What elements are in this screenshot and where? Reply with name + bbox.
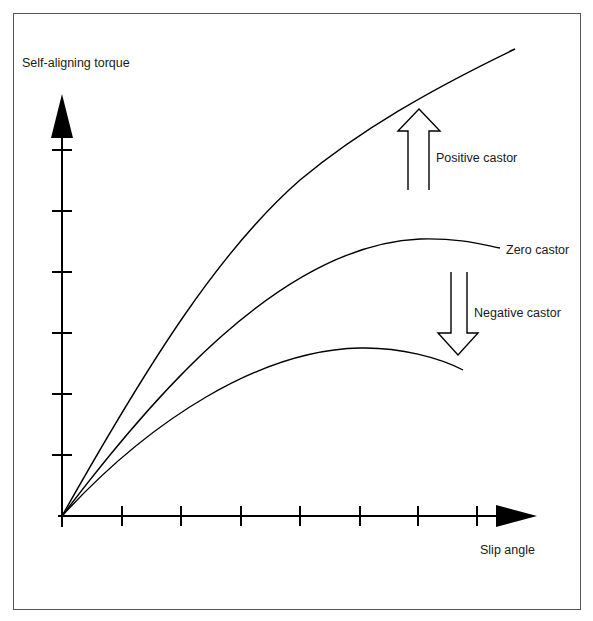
up-arrow-icon (398, 109, 440, 190)
zero-castor-label: Zero castor (506, 243, 569, 257)
negative-castor-curve (62, 348, 463, 516)
y-axis-label: Self-aligning torque (22, 56, 130, 70)
negative-castor-label: Negative castor (474, 306, 561, 320)
zero-castor-curve (62, 239, 500, 516)
down-arrow-icon (438, 272, 478, 355)
positive-castor-label: Positive castor (436, 151, 517, 165)
y-axis-arrow-icon (51, 94, 73, 138)
x-axis-label: Slip angle (480, 543, 535, 557)
x-axis-arrow-icon (496, 505, 537, 527)
positive-castor-curve (62, 49, 515, 516)
